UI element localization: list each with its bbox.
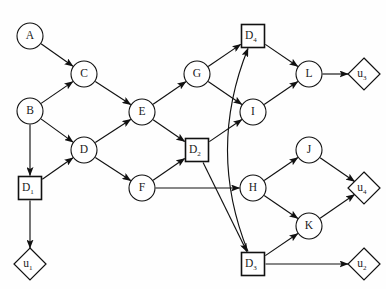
edge-c-to-e xyxy=(95,81,130,104)
node-j[interactable]: J xyxy=(296,137,322,163)
node-e[interactable]: E xyxy=(129,99,155,125)
node-label: A xyxy=(26,29,35,41)
node-label: H xyxy=(249,181,257,193)
node-i[interactable]: I xyxy=(240,99,266,125)
node-u1[interactable]: u1 xyxy=(14,248,46,280)
node-d4[interactable]: D4 xyxy=(242,25,265,48)
edge-h-to-j xyxy=(264,158,298,181)
edge-a-to-c xyxy=(41,44,73,66)
node-c[interactable]: C xyxy=(71,61,97,87)
node-b[interactable]: B xyxy=(17,98,43,124)
edge-f-to-d2 xyxy=(153,159,185,181)
node-a[interactable]: A xyxy=(17,23,43,49)
node-f[interactable]: F xyxy=(129,175,155,201)
node-d2[interactable]: D2 xyxy=(186,139,209,162)
edge-g-to-d4 xyxy=(208,44,241,66)
edge-d-to-e xyxy=(95,119,130,142)
edge-d1-to-d xyxy=(42,158,73,180)
node-u4[interactable]: u4 xyxy=(348,172,380,204)
node-k[interactable]: K xyxy=(296,213,322,239)
node-l[interactable]: L xyxy=(296,61,322,87)
node-label: J xyxy=(307,143,312,155)
node-d1[interactable]: D1 xyxy=(19,177,42,200)
node-h[interactable]: H xyxy=(240,175,266,201)
node-label: K xyxy=(305,219,314,231)
node-label: B xyxy=(26,104,34,116)
edge-d2-to-d3 xyxy=(203,162,247,251)
edge-d-to-f xyxy=(95,157,130,180)
node-label: G xyxy=(193,67,201,79)
edge-d3-to-k xyxy=(265,234,298,256)
node-label: F xyxy=(139,181,145,193)
node-label: C xyxy=(80,67,88,79)
node-label: I xyxy=(251,105,255,117)
node-label: D xyxy=(80,143,88,155)
diagram-canvas: ABCDEFGIHJKLD1D2D3D4u1u2u3u4 xyxy=(0,0,386,289)
edge-k-to-u4 xyxy=(320,195,354,219)
node-g[interactable]: G xyxy=(184,61,210,87)
node-u3[interactable]: u3 xyxy=(348,58,380,90)
edge-b-to-c xyxy=(41,82,73,104)
node-u2[interactable]: u2 xyxy=(348,248,380,280)
edge-d3-to-d4 xyxy=(227,48,247,251)
node-d[interactable]: D xyxy=(71,137,97,163)
edge-d2-to-i xyxy=(209,120,242,142)
edge-e-to-d2 xyxy=(153,120,185,142)
node-label: E xyxy=(138,105,145,117)
edge-b-to-d xyxy=(41,119,73,142)
node-d3[interactable]: D3 xyxy=(242,253,265,276)
node-label: L xyxy=(305,67,312,79)
edge-d4-to-l xyxy=(265,44,298,66)
edge-h-to-k xyxy=(264,196,298,219)
influence-diagram: ABCDEFGIHJKLD1D2D3D4u1u2u3u4 xyxy=(0,0,386,289)
edge-g-to-i xyxy=(208,82,242,105)
edge-e-to-g xyxy=(153,82,186,105)
edge-i-to-l xyxy=(264,82,298,105)
edge-j-to-u4 xyxy=(320,158,354,182)
nodes-layer: ABCDEFGIHJKLD1D2D3D4u1u2u3u4 xyxy=(14,23,380,280)
